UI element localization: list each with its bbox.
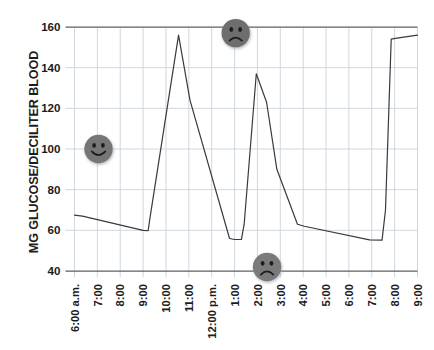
y-tick-label: 100 [41, 142, 60, 155]
x-tick-label: 7:00 [366, 284, 378, 306]
x-tick-label: 7:00 [92, 284, 104, 306]
y-tick-label: 140 [41, 61, 60, 74]
y-tick-label: 160 [41, 20, 60, 33]
x-tick-label: 8:00 [114, 284, 126, 306]
face-eye-right [101, 143, 105, 148]
face-eye-right [238, 27, 242, 32]
face-eye-right [270, 261, 274, 266]
x-tick-label: 8:00 [389, 284, 401, 306]
face-eye-left [229, 27, 233, 32]
x-tick-label: 12:00 p.m. [206, 284, 218, 339]
face-circle [253, 253, 281, 281]
sad-face-marker-high [222, 19, 250, 47]
y-tick-label: 80 [48, 183, 61, 196]
y-tick-label: 40 [48, 264, 61, 277]
happy-face-marker [84, 135, 112, 163]
x-tick-label: 6:00 [343, 284, 355, 306]
face-circle [84, 135, 112, 163]
y-axis-title: MG GLUCOSE/DECILITER BLOOD [27, 51, 41, 253]
x-tick-label: 6:00 a.m. [69, 284, 81, 332]
x-tick-label: 1:00 [229, 284, 241, 306]
x-tick-label: 2:00 [252, 284, 264, 306]
x-tick-label: 9:00 [137, 284, 149, 306]
face-eye-left [261, 261, 265, 266]
glucose-chart: 406080100120140160 6:00 a.m.7:008:009:00… [0, 0, 434, 350]
y-tick-label: 120 [41, 101, 60, 114]
x-tick-label: 9:00 [412, 284, 424, 306]
y-tick-label: 60 [48, 223, 61, 236]
face-eye-left [92, 143, 96, 148]
face-circle [222, 19, 250, 47]
x-tick-label: 10:00 [160, 284, 172, 313]
sad-face-marker-low [253, 253, 281, 281]
x-tick-label: 11:00 [183, 284, 195, 312]
x-tick-label: 5:00 [320, 284, 332, 306]
x-tick-label: 4:00 [297, 284, 309, 306]
x-tick-label: 3:00 [275, 284, 287, 306]
chart-canvas: 406080100120140160 6:00 a.m.7:008:009:00… [0, 0, 434, 350]
